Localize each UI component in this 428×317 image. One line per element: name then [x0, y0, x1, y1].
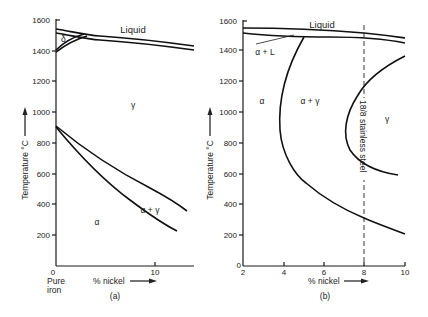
ytick-label: 1000 [219, 108, 237, 117]
panel-b: 1600 1400 1200 1000 800 600 400 200 0 2 … [205, 17, 410, 301]
caption-b: (b) [320, 291, 331, 301]
arrow-head-icon [361, 279, 369, 284]
region-label-gamma: γ [131, 100, 136, 110]
xtick-label: 4 [282, 268, 287, 277]
ytick-label: 200 [224, 231, 238, 240]
region-label-alpha: α [95, 217, 100, 227]
ytick-label: 1600 [219, 17, 237, 26]
region-label-liquid: Liquid [309, 19, 334, 30]
solidus-curve [56, 33, 194, 50]
xtick-label: 2 [241, 268, 246, 277]
region-label-gamma: γ [385, 114, 390, 124]
ytick-label: 200 [37, 231, 51, 240]
ytick-label: 1600 [32, 16, 50, 25]
gamma-boundary-curve [346, 56, 405, 175]
region-label-delta: δ [61, 34, 66, 44]
ytick-label: 400 [224, 200, 238, 209]
phase-diagrams: 1600 1400 1200 1000 800 600 400 200 0 10… [0, 0, 428, 317]
ytick-label: 800 [37, 139, 51, 148]
ytick-label: 1400 [32, 47, 50, 56]
xtick-label: 10 [151, 268, 160, 277]
caption-a: (a) [110, 291, 121, 301]
gamma-boundary-curve [56, 126, 187, 211]
ytick-label: 1400 [219, 46, 237, 55]
ytick-label: 1200 [219, 77, 237, 86]
origin-label: iron [47, 285, 61, 295]
arrow-head-icon [208, 107, 213, 115]
arrow-head-icon [149, 279, 157, 284]
ytick-label: 600 [224, 170, 238, 179]
ytick-label: 1000 [32, 108, 50, 117]
ytick-label: 1200 [32, 77, 50, 86]
ytick-label: 800 [224, 139, 238, 148]
arrow-head-icon [23, 107, 28, 115]
y-axis-label: Temperature °C [20, 140, 30, 200]
x-axis-label: % nickel [93, 276, 125, 286]
region-label-alpha-gamma: α + γ [301, 96, 321, 106]
region-label-alpha-gamma: α + γ [141, 205, 161, 215]
ytick-label: 600 [37, 170, 51, 179]
region-label-liquid: Liquid [120, 24, 145, 35]
region-label-alpha: α [260, 96, 265, 106]
xtick-label: 8 [362, 268, 367, 277]
region-label-alpha-l: α + L [255, 47, 275, 57]
panel-a: 1600 1400 1200 1000 800 600 400 200 0 10… [20, 16, 194, 301]
alpha-boundary-curve [56, 127, 177, 231]
ytick-label: 400 [37, 200, 51, 209]
x-axis-label: % nickel [308, 276, 340, 286]
xtick-label: 10 [401, 268, 410, 277]
stainless-steel-annotation: 18/8 stainless steel [358, 100, 368, 172]
y-axis-label: Temperature °C [205, 140, 215, 200]
